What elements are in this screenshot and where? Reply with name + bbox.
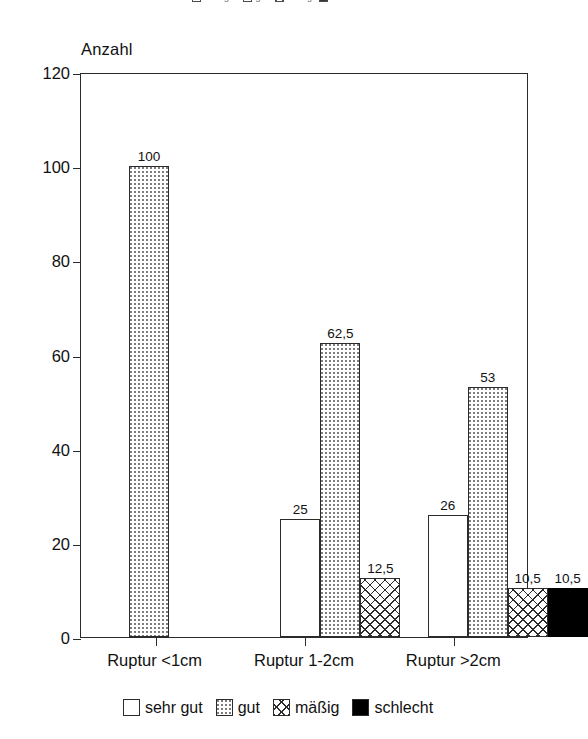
bar-value-label: 62,5 — [327, 326, 353, 341]
bar-mig-group-2[interactable] — [360, 578, 400, 637]
bar-value-label: 12,5 — [367, 561, 393, 576]
legend-top-item[interactable]: mäßig — [275, 0, 312, 2]
y-axis-tick — [73, 168, 81, 169]
y-axis-labels: 020406080100120 — [0, 73, 70, 638]
x-axis-tick — [454, 637, 455, 646]
y-axis-tick — [73, 262, 81, 263]
legend-bottom-label: gut — [238, 699, 260, 716]
legend-bottom-item[interactable]: sehr gut — [123, 699, 203, 716]
bar-gut-group-3[interactable] — [468, 387, 508, 637]
y-axis-tick-label: 60 — [52, 346, 70, 365]
legend-swatch-maessig — [275, 0, 284, 2]
x-axis-category-label: Ruptur 1-2cm — [254, 651, 354, 670]
legend-bottom-item[interactable]: gut — [216, 699, 260, 716]
x-axis-tick — [156, 637, 157, 646]
y-axis-title: Anzahl — [81, 40, 133, 59]
y-axis-tick — [73, 451, 81, 452]
y-axis-tick — [73, 639, 81, 640]
y-axis-tick — [73, 357, 81, 358]
legend-swatch-sehr-gut — [192, 0, 201, 2]
y-axis-tick-label: 40 — [52, 440, 70, 459]
y-axis-tick — [73, 74, 81, 75]
legend-bottom-label: schlecht — [374, 699, 433, 716]
bar-value-label: 10,5 — [515, 571, 541, 586]
legend-swatch-sehr-gut — [123, 699, 140, 716]
bar-mig-group-3[interactable] — [508, 588, 548, 637]
x-axis-tick — [305, 637, 306, 646]
bar-sehrgut-group-3[interactable] — [428, 515, 468, 637]
legend-bottom-item[interactable]: schlecht — [352, 699, 433, 716]
y-axis-tick — [73, 545, 81, 546]
x-axis-categories: Ruptur <1cmRuptur 1-2cmRuptur >2cm — [80, 651, 528, 679]
bar-schlecht-group-3[interactable] — [548, 588, 588, 637]
legend-swatch-gut — [243, 0, 252, 2]
y-axis-tick-label: 100 — [42, 158, 70, 177]
y-axis-tick-label: 120 — [42, 64, 70, 83]
bar-value-label: 26 — [440, 498, 455, 513]
bar-gut-group-2[interactable] — [320, 343, 360, 637]
y-axis-tick-label: 0 — [61, 629, 70, 648]
x-axis-category-label: Ruptur >2cm — [406, 651, 501, 670]
plot-area: 1002562,512,5265310,510,5 — [80, 73, 528, 638]
legend-top-item[interactable]: schlecht — [319, 0, 364, 2]
bar-value-label: 100 — [138, 149, 161, 164]
legend-top-item[interactable]: gut — [243, 0, 268, 2]
bar-gut-group-1[interactable] — [129, 166, 169, 637]
legend-top-item[interactable]: sehr gut — [192, 0, 237, 2]
plot-inner: 1002562,512,5265310,510,5 — [81, 74, 527, 637]
legend-top-clipped: sehr gutgutmäßigschlecht — [0, 0, 556, 9]
y-axis-tick-label: 20 — [52, 534, 70, 553]
y-axis-tick-label: 80 — [52, 252, 70, 271]
bar-sehrgut-group-2[interactable] — [280, 519, 320, 637]
legend-bottom: sehr gutgutmäßigschlecht — [0, 699, 556, 716]
legend-bottom-label: sehr gut — [145, 699, 203, 716]
legend-swatch-schlecht — [319, 0, 328, 2]
x-axis-category-label: Ruptur <1cm — [107, 651, 202, 670]
legend-swatch-schlecht — [352, 699, 369, 716]
legend-top-label: schlecht — [331, 0, 364, 2]
legend-swatch-gut — [216, 699, 233, 716]
bar-value-label: 10,5 — [555, 571, 581, 586]
legend-top-label: gut — [255, 0, 268, 2]
legend-top-label: sehr gut — [204, 0, 237, 2]
legend-swatch-maessig — [273, 699, 290, 716]
legend-bottom-item[interactable]: mäßig — [273, 699, 339, 716]
legend-bottom-label: mäßig — [295, 699, 339, 716]
bar-value-label: 53 — [480, 370, 495, 385]
legend-top-label: mäßig — [287, 0, 312, 2]
bar-value-label: 25 — [293, 502, 308, 517]
legend-top-row: sehr gutgutmäßigschlecht — [0, 0, 556, 2]
